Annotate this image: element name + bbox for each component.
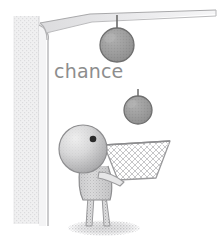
figure-eye (90, 136, 97, 143)
chance-illustration: chance (0, 0, 218, 246)
figure-head (59, 125, 107, 173)
falling-ball-upper (100, 28, 134, 62)
wall-pillar (14, 16, 39, 224)
illustration-canvas: chance (0, 0, 218, 246)
falling-ball-lower (124, 96, 152, 124)
caption-label: chance (54, 60, 124, 82)
